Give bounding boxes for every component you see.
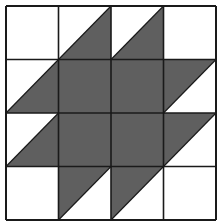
cell-2-2-dark <box>111 113 164 167</box>
cell-0-3-white <box>164 6 217 60</box>
cell-0-0-white <box>6 6 59 60</box>
cell-1-2-dark <box>111 60 164 114</box>
cell-1-1-dark <box>59 60 112 114</box>
quilt-block-diagram <box>0 0 219 222</box>
cell-3-3-white <box>164 167 217 221</box>
cell-3-0-white <box>6 167 59 221</box>
cell-2-1-dark <box>59 113 112 167</box>
